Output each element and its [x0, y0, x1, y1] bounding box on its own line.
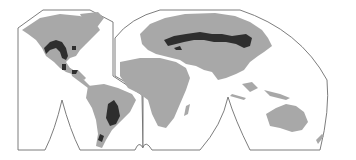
world-map [0, 0, 356, 160]
region-east-dot [72, 46, 76, 50]
